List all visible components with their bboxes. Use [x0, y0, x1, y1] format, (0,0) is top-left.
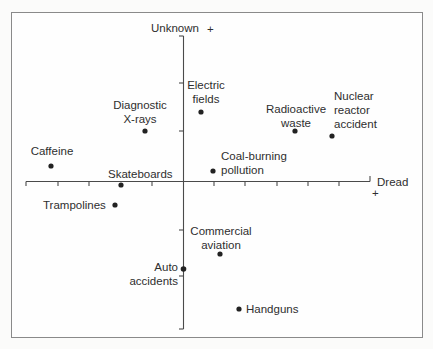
label-commercial-aviation: Commercial aviation [186, 224, 256, 252]
label-skateboards: Skateboards [108, 167, 173, 181]
label-trampolines: Trampolines [43, 198, 106, 212]
label-caffeine: Caffeine [24, 144, 80, 158]
point-auto-accidents [181, 266, 187, 272]
point-nuclear-reactor-accident [329, 133, 334, 138]
horizontal-axis [26, 176, 370, 186]
x-axis-plus-sign: + [372, 186, 379, 200]
y-axis-label-unknown: Unknown [151, 21, 199, 35]
x-axis-label-dread: Dread [377, 175, 408, 189]
risk-perception-plot [0, 0, 433, 349]
point-handguns [236, 306, 241, 311]
label-nuclear-reactor-accident: Nuclear reactor accident [334, 89, 377, 131]
point-skateboards [118, 182, 123, 187]
vertical-axis [179, 36, 184, 329]
point-electric-fields [198, 109, 203, 114]
label-electric-fields: Electric fields [184, 78, 228, 106]
label-handguns: Handguns [246, 302, 298, 316]
label-radioactive-waste: Radioactive waste [253, 102, 339, 130]
label-diagnostic-xrays: Diagnostic X-rays [100, 98, 180, 126]
x-axis-label-text: Dread [377, 176, 408, 188]
point-commercial-aviation [217, 251, 222, 256]
label-coal-burning-pollution: Coal-burning pollution [221, 149, 287, 177]
label-auto-accidents: Auto accidents [120, 260, 178, 288]
y-axis-plus-sign: + [207, 22, 214, 36]
point-caffeine [48, 163, 53, 168]
point-trampolines [112, 202, 117, 207]
y-axis-label-text: Unknown [151, 22, 199, 34]
point-coal-burning-pollution [210, 168, 215, 173]
point-diagnostic-xrays [142, 128, 147, 133]
